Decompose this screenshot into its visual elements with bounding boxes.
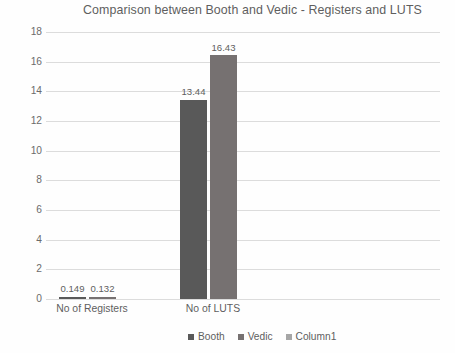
chart-title: Comparison between Booth and Vedic - Reg… bbox=[60, 3, 445, 17]
gridline-8 bbox=[46, 180, 440, 181]
bar-booth-registers[interactable] bbox=[59, 297, 86, 299]
legend-item-vedic[interactable]: Vedic bbox=[238, 331, 273, 342]
data-label-vedic-luts: 16.43 bbox=[204, 43, 243, 53]
legend-label-booth: Booth bbox=[198, 331, 225, 342]
category-label-luts: No of LUTS bbox=[163, 303, 263, 315]
y-tick-18: 18 bbox=[8, 27, 42, 37]
gridline-12 bbox=[46, 121, 440, 122]
gridline-4 bbox=[46, 240, 440, 241]
legend-item-column1[interactable]: Column1 bbox=[286, 331, 337, 342]
gridline-6 bbox=[46, 210, 440, 211]
gridline-10 bbox=[46, 151, 440, 152]
bar-vedic-luts[interactable] bbox=[210, 55, 237, 299]
data-label-vedic-registers: 0.132 bbox=[83, 284, 122, 294]
gridline-16 bbox=[46, 62, 440, 63]
gridline-18 bbox=[46, 32, 440, 33]
y-axis: 18 16 14 12 10 8 6 4 2 0 bbox=[0, 32, 42, 299]
y-tick-0: 0 bbox=[8, 294, 42, 304]
y-tick-6: 6 bbox=[8, 205, 42, 215]
y-tick-14: 14 bbox=[8, 86, 42, 96]
y-tick-16: 16 bbox=[8, 57, 42, 67]
bar-booth-luts[interactable] bbox=[180, 100, 207, 299]
bar-vedic-registers[interactable] bbox=[89, 297, 116, 299]
legend: Booth Vedic Column1 bbox=[188, 331, 336, 342]
category-label-registers: No of Registers bbox=[42, 303, 142, 315]
legend-swatch-booth-icon bbox=[188, 334, 194, 340]
legend-swatch-vedic-icon bbox=[238, 334, 244, 340]
gridline-14 bbox=[46, 91, 440, 92]
legend-swatch-column1-icon bbox=[286, 334, 292, 340]
gridline-2 bbox=[46, 269, 440, 270]
gridline-0 bbox=[46, 299, 440, 300]
plot-area: 0.149 0.132 13.44 16.43 bbox=[46, 32, 440, 299]
y-tick-8: 8 bbox=[8, 175, 42, 185]
y-tick-2: 2 bbox=[8, 264, 42, 274]
legend-label-vedic: Vedic bbox=[248, 331, 273, 342]
y-tick-10: 10 bbox=[8, 146, 42, 156]
bar-chart: Comparison between Booth and Vedic - Reg… bbox=[0, 0, 455, 353]
data-label-booth-luts: 13.44 bbox=[174, 87, 213, 97]
y-tick-12: 12 bbox=[8, 116, 42, 126]
legend-label-column1: Column1 bbox=[296, 331, 337, 342]
legend-item-booth[interactable]: Booth bbox=[188, 331, 225, 342]
y-tick-4: 4 bbox=[8, 235, 42, 245]
